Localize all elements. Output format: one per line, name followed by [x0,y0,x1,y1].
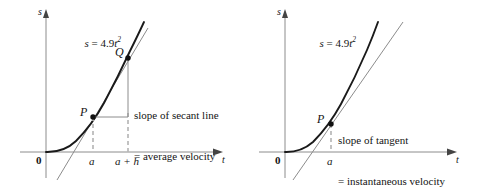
secant-annotation-line2: = average velocity [134,150,219,164]
equation-exponent: 2 [117,35,121,44]
t-axis-label: t [456,154,459,165]
figure-root: s t s = 4.9t2 0 a a + h P Q slope of sec… [0,0,486,189]
tick-label-a: a [327,155,333,167]
point-label-Q: Q [115,46,124,59]
tangent-panel: s t s = 4.9t2 0 a P slope of tangent = i… [243,0,486,189]
origin-label: 0 [36,154,42,166]
equation-label: s = 4.9t2 [303,24,356,62]
origin-label: 0 [275,154,281,166]
point-label-P: P [317,113,324,126]
point-P-marker [90,114,95,119]
secant-panel: s t s = 4.9t2 0 a a + h P Q slope of sec… [0,0,243,189]
point-Q-marker [125,55,130,60]
point-P-marker [328,121,333,126]
tick-label-a: a [89,155,95,167]
secant-annotation-line1: slope of secant line [134,109,219,123]
tangent-annotation: slope of tangent = instantaneous velocit… [338,106,445,189]
tangent-annotation-line2: = instantaneous velocity [338,175,445,189]
tangent-annotation-line1: slope of tangent [338,134,445,148]
s-axis-label: s [277,6,281,17]
s-axis-label: s [38,6,42,17]
equation-label: s = 4.9t2 [68,24,121,62]
equation-coefficient: 4.9 [101,37,115,49]
secant-annotation: slope of secant line = average velocity [134,81,219,189]
equation-coefficient: 4.9 [336,37,350,49]
t-axis-label: t [222,154,225,165]
equation-exponent: 2 [352,35,356,44]
point-label-P: P [80,106,87,119]
